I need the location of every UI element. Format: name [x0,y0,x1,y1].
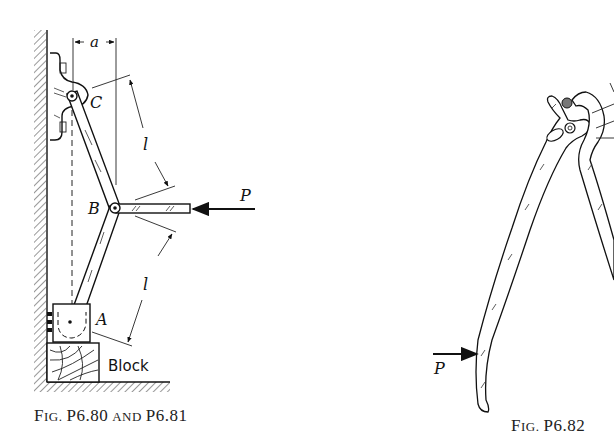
figure-canvas: a [0,0,614,438]
push-rod [116,204,190,213]
pivot-pin-icon [565,123,575,133]
slider-a [47,304,90,342]
block-label: Block [108,357,149,375]
force-p-arrow: P [193,186,255,209]
pin-a-label: A [94,310,108,329]
pin-c-label: C [90,93,102,112]
figure-caption-p6-82: FIG.P6.82 [511,416,585,435]
force-p-label: P [239,186,251,205]
dimension-a-label: a [90,33,99,51]
figure-caption-p6-80: FIG.P6.80ANDP6.81 [34,406,188,425]
length-l-upper-label: l [143,135,148,154]
length-l-lower-label: l [143,275,148,294]
pliers-force-p-arrow: P [433,354,477,378]
toggle-mechanism-figure: a [34,30,255,425]
pin-b-label: B [87,199,100,218]
wooden-block: Block [47,343,149,382]
workpiece-icon [562,98,572,108]
bolt-icon [60,122,66,132]
link-ba [70,206,120,318]
wall [34,30,47,382]
floor [34,382,170,392]
pin-a-icon [68,320,72,324]
pliers-force-p-label: P [433,359,445,378]
pliers-handle-left [476,96,590,412]
pliers-figure: P FIG.P6.82 [433,83,614,435]
